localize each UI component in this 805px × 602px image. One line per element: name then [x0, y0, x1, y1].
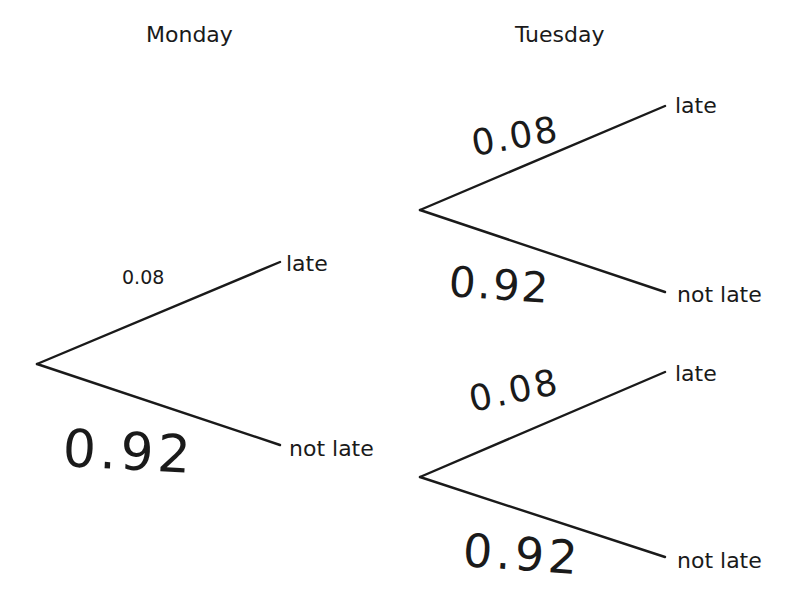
outcome-tue-late-not-late: not late	[677, 282, 762, 307]
prob-monday-late: 0.08	[122, 266, 164, 288]
probability-tree: Monday Tuesday late not late 0.08 0.92 l…	[0, 0, 805, 602]
outcome-monday-not-late: not late	[289, 436, 374, 461]
prob-tue-late-not-late: 0.92	[447, 257, 552, 313]
outcome-tue-notlate-late: late	[675, 361, 717, 386]
header-tuesday: Tuesday	[514, 22, 605, 47]
tuesday-after-late-node: late not late 0.08 0.92	[420, 93, 762, 313]
outcome-tue-late-late: late	[675, 93, 717, 118]
tuesday-after-not-late-node: late not late 0.08 0.92	[420, 361, 762, 586]
prob-tue-notlate-not-late: 0.92	[461, 523, 583, 585]
prob-tue-notlate-late: 0.08	[465, 361, 564, 420]
header-monday: Monday	[146, 22, 233, 47]
outcome-tue-notlate-not-late: not late	[677, 548, 762, 573]
outcome-monday-late: late	[286, 251, 328, 276]
monday-node: late not late 0.08 0.92	[37, 251, 374, 485]
prob-monday-not-late: 0.92	[61, 418, 196, 485]
